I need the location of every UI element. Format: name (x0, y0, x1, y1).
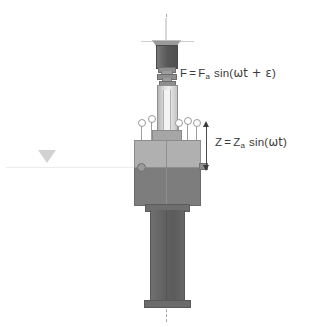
push-rod-shaft-core (163, 90, 171, 132)
displacement-formula-amplitude-subscript: a (240, 141, 245, 150)
sensor-pin-head (175, 119, 183, 127)
sensor-pin-head (193, 119, 201, 127)
column-base-flange (144, 300, 191, 308)
force-formula-lhs: F (180, 67, 187, 79)
specimen-side-knob (137, 163, 146, 172)
dimension-arrow-head-down (203, 165, 209, 171)
force-formula-close: ) (272, 67, 276, 79)
force-formula-argument: ωt + ε (233, 66, 272, 80)
support-column (150, 210, 185, 300)
column-inner-seam (166, 210, 167, 300)
force-formula-label: F=Fasin(ωt + ε) (180, 66, 276, 81)
force-formula-equals: = (189, 67, 196, 79)
sensor-pin-head (184, 117, 192, 125)
force-formula-amplitude-subscript: a (205, 72, 210, 81)
displacement-formula-lhs: Z (215, 136, 222, 148)
displacement-formula-label: Z=Zasin(ωt) (215, 135, 287, 150)
specimen-lower-half (134, 167, 201, 206)
sensor-pin-head (148, 115, 156, 123)
figure-canvas: F=Fasin(ωt + ε) Z=Zasin(ωt) (0, 0, 333, 327)
displacement-formula-equals: = (224, 136, 231, 148)
displacement-formula-argument: ωt (268, 135, 283, 149)
dimension-arrow-line (206, 127, 207, 165)
force-formula-function: sin( (214, 67, 233, 79)
ground-triangle-icon (38, 150, 56, 163)
electrodynamic-exciter-body (156, 45, 178, 69)
displacement-formula-close: ) (283, 136, 287, 148)
specimen-inner-seam (166, 140, 167, 204)
ground-reference-line (6, 167, 146, 168)
displacement-formula-function: sin( (249, 136, 268, 148)
sensor-pin-head (138, 119, 146, 127)
upper-guide-rod (165, 18, 167, 40)
